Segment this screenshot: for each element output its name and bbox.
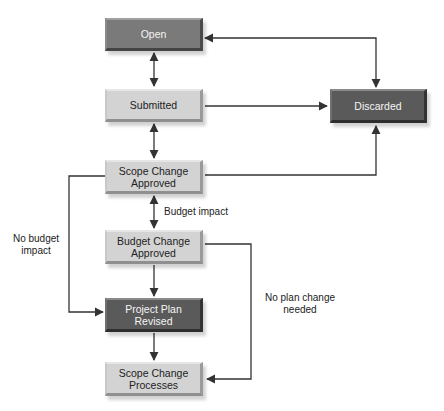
label-budget-impact: Budget impact: [164, 206, 244, 218]
node-submitted: Submitted: [105, 89, 203, 122]
node-scope-change-approved: Scope Change Approved: [105, 160, 203, 194]
node-scope-change-processes: Scope Change Processes: [105, 362, 203, 396]
edge-scope-approved-discarded: [205, 126, 376, 175]
label-no-plan-change-needed: No plan change needed: [258, 292, 342, 316]
node-project-plan-revised: Project Plan Revised: [105, 298, 203, 332]
node-open: Open: [105, 18, 203, 51]
edge-open-discarded: [205, 38, 376, 87]
node-budget-change-approved: Budget Change Approved: [105, 230, 203, 264]
state-flow-diagram: Open Submitted Discarded Scope Change Ap…: [0, 0, 444, 411]
node-discarded: Discarded: [330, 89, 427, 123]
label-no-budget-impact: No budget impact: [6, 233, 66, 257]
edge-scope-approved-plan-revised: [69, 176, 105, 312]
edge-budget-approved-processes: [205, 244, 251, 379]
